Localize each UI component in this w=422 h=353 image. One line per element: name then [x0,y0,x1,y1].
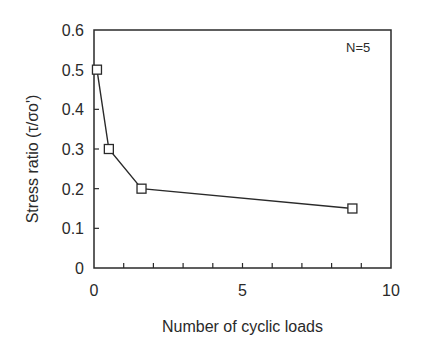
y-tick-label: 0 [75,260,84,277]
y-tick-label: 0.4 [62,101,84,118]
x-tick-label: 10 [382,282,400,299]
data-point-marker [92,65,101,74]
chart: 00.10.20.30.40.50.6 0510 N=5 Number of c… [0,0,422,353]
data-point-marker [348,204,357,213]
series-line [97,70,352,209]
series-layer [92,65,356,213]
plot-frame [94,30,391,268]
x-tick-label: 0 [90,282,99,299]
annotation-n5: N=5 [346,40,370,55]
x-tick-label: 5 [238,282,247,299]
y-tick-label: 0.1 [62,220,84,237]
data-point-marker [104,145,113,154]
y-tick-label: 0.6 [62,22,84,39]
y-tick-label: 0.2 [62,181,84,198]
y-axis-title: Stress ratio (τ/σo') [24,95,41,224]
x-axis-title: Number of cyclic loads [162,318,323,335]
y-tick-label: 0.3 [62,141,84,158]
y-tick-label: 0.5 [62,62,84,79]
data-point-marker [137,184,146,193]
